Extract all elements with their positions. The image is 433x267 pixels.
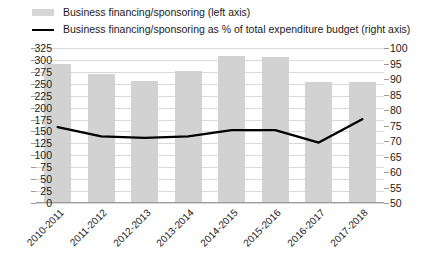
x-tick-label: 2010-2011: [24, 207, 65, 248]
plot-area: [36, 48, 384, 203]
y-tick-right: 50: [390, 198, 424, 208]
y-tick-left: 200: [22, 103, 52, 113]
bar-slot: [167, 48, 211, 203]
bar-slot: [210, 48, 254, 203]
y-tick-right: 95: [390, 59, 424, 69]
y-tick-mark-left: [31, 96, 36, 97]
y-tick-left: 25: [22, 186, 52, 196]
y-tick-left: 75: [22, 162, 52, 172]
y-tick-left: 225: [22, 91, 52, 101]
y-tick-mark-right: [384, 79, 389, 80]
y-tick-mark-left: [31, 108, 36, 109]
y-tick-left: 175: [22, 115, 52, 125]
bar: [349, 82, 376, 203]
y-tick-left: 150: [22, 126, 52, 136]
y-tick-right: 100: [390, 43, 424, 53]
bar: [131, 81, 158, 203]
y-tick-mark-right: [384, 172, 389, 173]
y-tick-mark-right: [384, 157, 389, 158]
y-tick-left: 325: [22, 43, 52, 53]
y-tick-mark-left: [31, 131, 36, 132]
y-tick-mark-right: [384, 126, 389, 127]
y-tick-mark-left: [31, 179, 36, 180]
bar-swatch-icon: [32, 9, 54, 16]
axis-baseline: [36, 202, 384, 203]
y-tick-mark-right: [384, 64, 389, 65]
y-tick-mark-left: [31, 167, 36, 168]
y-tick-mark-left: [31, 191, 36, 192]
legend-item-bar: Business financing/sponsoring (left axis…: [32, 4, 432, 21]
y-tick-right: 60: [390, 167, 424, 177]
y-tick-right: 55: [390, 183, 424, 193]
x-axis-labels: 2010-20112011-20122012-20132013-20142014…: [36, 205, 384, 265]
y-tick-mark-right: [384, 48, 389, 49]
bar: [175, 71, 202, 203]
y-tick-mark-left: [31, 72, 36, 73]
y-tick-mark-left: [31, 60, 36, 61]
bar-slot: [297, 48, 341, 203]
bar-slot: [123, 48, 167, 203]
y-tick-mark-left: [31, 143, 36, 144]
x-label-slot: 2017-2018: [341, 205, 385, 265]
y-tick-left: 275: [22, 67, 52, 77]
y-tick-left: 125: [22, 138, 52, 148]
legend-item-line: Business financing/sponsoring as % of to…: [32, 21, 432, 38]
y-tick-left: 250: [22, 79, 52, 89]
y-tick-right: 80: [390, 105, 424, 115]
y-tick-mark-left: [31, 48, 36, 49]
y-tick-mark-left: [31, 84, 36, 85]
bar-slot: [254, 48, 298, 203]
y-tick-mark-left: [31, 203, 36, 204]
bar: [218, 56, 245, 203]
bar: [305, 82, 332, 203]
y-tick-mark-left: [31, 120, 36, 121]
y-tick-left: 50: [22, 174, 52, 184]
y-tick-right: 70: [390, 136, 424, 146]
y-tick-left: 0: [22, 198, 52, 208]
bar-series: [36, 48, 384, 203]
y-tick-mark-right: [384, 141, 389, 142]
y-tick-right: 75: [390, 121, 424, 131]
chart-legend: Business financing/sponsoring (left axis…: [32, 4, 432, 38]
y-tick-right: 90: [390, 74, 424, 84]
y-tick-mark-left: [31, 155, 36, 156]
bar: [262, 57, 289, 203]
y-tick-right: 85: [390, 90, 424, 100]
chart-container: Business financing/sponsoring (left axis…: [0, 0, 433, 267]
legend-label-line: Business financing/sponsoring as % of to…: [63, 24, 410, 35]
legend-label-bar: Business financing/sponsoring (left axis…: [63, 7, 250, 18]
gridline: [36, 203, 384, 204]
line-swatch-icon: [32, 29, 54, 31]
y-tick-mark-right: [384, 188, 389, 189]
y-tick-mark-right: [384, 203, 389, 204]
y-tick-left: 100: [22, 150, 52, 160]
bar-slot: [80, 48, 124, 203]
bar: [88, 74, 115, 203]
y-tick-mark-right: [384, 95, 389, 96]
bar-slot: [341, 48, 385, 203]
y-tick-mark-right: [384, 110, 389, 111]
y-tick-left: 300: [22, 55, 52, 65]
y-tick-right: 65: [390, 152, 424, 162]
